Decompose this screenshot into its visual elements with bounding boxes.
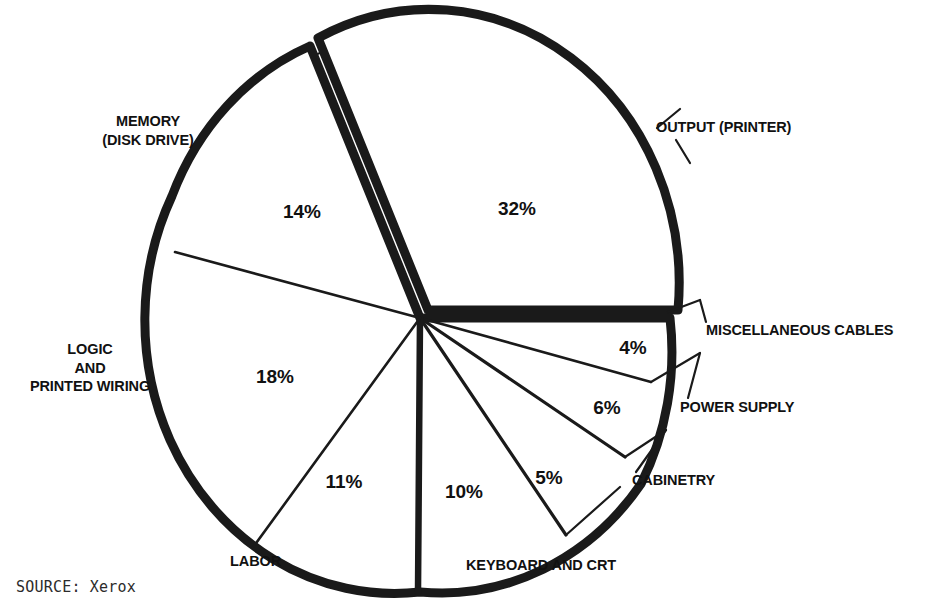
- pie-chart-figure: MEMORY (DISK DRIVE) LOGIC AND PRINTED WI…: [0, 0, 935, 610]
- slice-label-memory-line1: MEMORY: [102, 112, 193, 131]
- slice-label-keyboard: KEYBOARD AND CRT: [466, 556, 616, 575]
- slice-value-keyboard: 10%: [445, 481, 483, 503]
- slice-label-output-printer: OUTPUT (PRINTER): [656, 118, 791, 137]
- slice-value-logic: 18%: [256, 366, 294, 388]
- slice-value-cabinetry: 5%: [535, 467, 562, 489]
- leader-line-output-printer-tail: [676, 140, 690, 163]
- slice-label-memory: MEMORY (DISK DRIVE): [102, 112, 193, 149]
- slice-value-memory: 14%: [283, 201, 321, 223]
- slice-label-logic-line3: PRINTED WIRING: [30, 377, 150, 396]
- slice-label-cabinetry: CABINETRY: [632, 471, 715, 490]
- slice-label-misc-cables: MISCELLANEOUS CABLES: [706, 321, 893, 340]
- slice-label-logic-line2: AND: [30, 359, 150, 378]
- slice-label-power-supply: POWER SUPPLY: [680, 398, 794, 417]
- slice-label-memory-line2: (DISK DRIVE): [102, 131, 193, 150]
- leader-line-misc-cables-tail: [700, 300, 706, 322]
- divider-keyboard-labor: [418, 318, 420, 592]
- slice-value-misc-cables: 4%: [619, 337, 646, 359]
- slice-value-power-supply: 6%: [593, 397, 620, 419]
- slice-value-labor: 11%: [326, 471, 363, 493]
- source-credit: SOURCE: Xerox: [16, 578, 136, 596]
- pie-chart-graphic: [0, 0, 935, 610]
- slice-label-logic-line1: LOGIC: [30, 340, 150, 359]
- slice-value-output: 32%: [498, 198, 536, 220]
- slice-label-labor: LABOR: [230, 552, 281, 571]
- slice-label-logic: LOGIC AND PRINTED WIRING: [30, 340, 150, 396]
